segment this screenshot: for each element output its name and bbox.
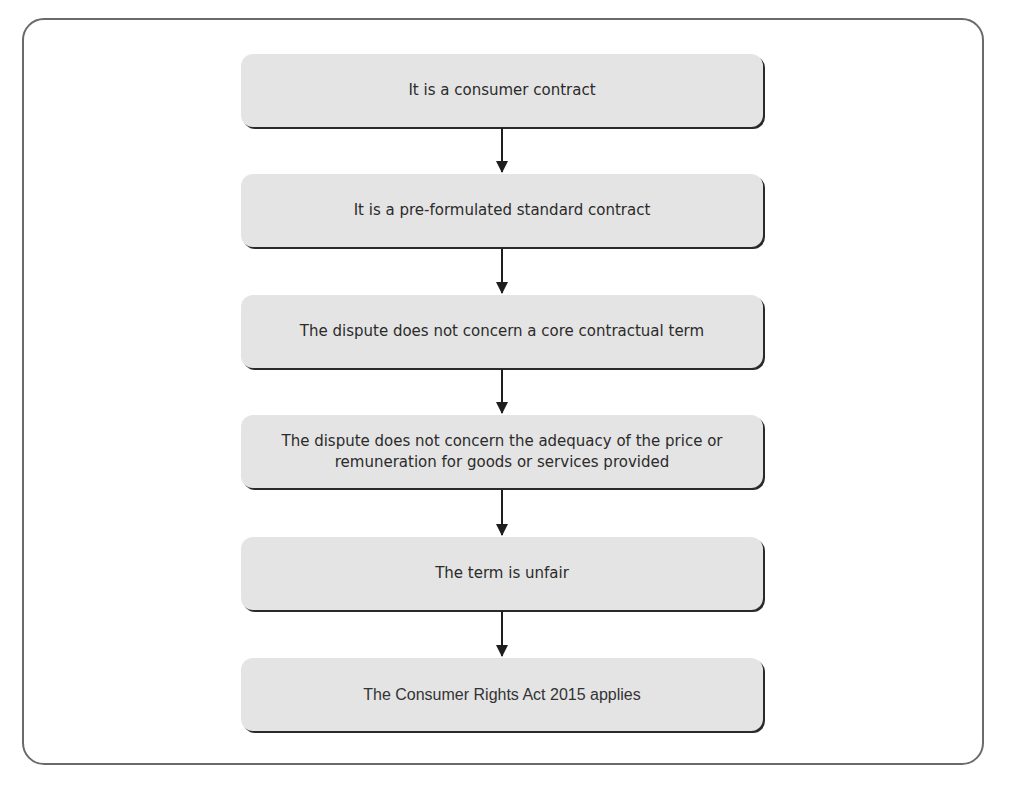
flow-step-act-applies: The Consumer Rights Act 2015 applies: [241, 658, 763, 731]
flow-step-price-adequacy: The dispute does not concern the adequac…: [241, 415, 763, 488]
arrow-down-icon: [501, 249, 503, 293]
flow-step-label: It is a pre-formulated standard contract: [354, 200, 651, 221]
flow-step-consumer-contract: It is a consumer contract: [241, 54, 763, 127]
arrow-down-icon: [501, 611, 503, 656]
arrow-down-icon: [501, 369, 503, 413]
arrow-down-icon: [501, 490, 503, 535]
flow-step-label: The term is unfair: [435, 563, 569, 584]
flow-step-term-unfair: The term is unfair: [241, 537, 763, 610]
flow-step-label: It is a consumer contract: [408, 80, 595, 101]
flow-step-standard-contract: It is a pre-formulated standard contract: [241, 174, 763, 247]
flow-step-core-term: The dispute does not concern a core cont…: [241, 295, 763, 368]
arrow-down-icon: [501, 128, 503, 172]
flow-step-label: The dispute does not concern the adequac…: [267, 431, 737, 473]
flow-step-label: The Consumer Rights Act 2015 applies: [363, 684, 640, 705]
flow-step-label: The dispute does not concern a core cont…: [300, 321, 704, 342]
